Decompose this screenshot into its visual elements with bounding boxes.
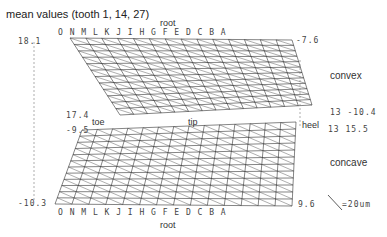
convex-label: convex bbox=[330, 70, 362, 81]
root-label-top: root bbox=[160, 18, 176, 28]
tip-label: tip bbox=[188, 117, 198, 127]
value-18-1: 18.1 bbox=[18, 37, 41, 46]
heel-label: heel bbox=[302, 120, 319, 130]
convex-surface-mesh bbox=[70, 38, 312, 115]
toe-label: toe bbox=[92, 117, 105, 127]
value-m7-6: -7.6 bbox=[296, 36, 319, 45]
value-17-4: 17.4 bbox=[66, 111, 89, 120]
scale-bar-icon bbox=[328, 195, 342, 210]
root-label-bottom: root bbox=[160, 220, 176, 230]
value-m9-5: -9.5 bbox=[66, 126, 89, 135]
scale-label: =20um bbox=[342, 200, 371, 209]
value-15-5: 13 15.5 bbox=[328, 125, 369, 134]
column-labels-top: O N M L K J I H G F E D C B A bbox=[58, 28, 227, 37]
column-labels-bottom: O N M L K J I H G F E D C B A bbox=[58, 208, 227, 217]
value-m10-4: 13 -10.4 bbox=[330, 108, 377, 117]
value-9-6: 9.6 bbox=[298, 200, 315, 209]
concave-surface-mesh bbox=[55, 122, 296, 206]
concave-label: concave bbox=[330, 157, 367, 168]
value-m10-3: -10.3 bbox=[18, 199, 47, 208]
